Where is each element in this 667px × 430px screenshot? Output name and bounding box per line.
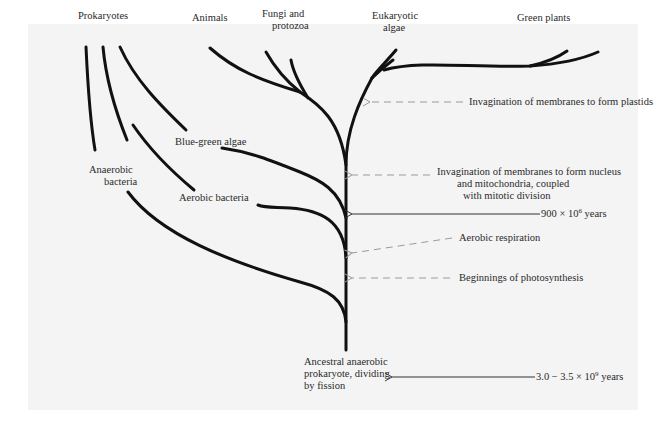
label-anaerobic-line2: bacteria — [104, 176, 137, 188]
event-nucleus-line1: Invagination of membranes to form nucleu… — [437, 166, 621, 178]
root-line3: by fission — [304, 380, 345, 392]
event-photosynthesis: Beginnings of photosynthesis — [459, 272, 583, 284]
event-nucleus-line2: and mitochondria, coupled — [457, 178, 569, 190]
event-nucleus-line3: with mitotic division — [463, 190, 551, 202]
label-fungi-line1: Fungi and — [262, 8, 304, 20]
label-blue-green-algae: Blue-green algae — [175, 136, 246, 148]
label-eukaryotic-line1: Eukaryotic — [372, 10, 418, 22]
event-plastids: Invagination of membranes to form plasti… — [469, 96, 653, 108]
label-fungi-line2: protozoa — [272, 20, 309, 32]
root-line2: prokaryote, dividing — [304, 368, 390, 380]
event-aerobic-respiration: Aerobic respiration — [459, 232, 540, 244]
label-green-plants: Green plants — [517, 12, 570, 24]
label-anaerobic-line1: Anaerobic — [89, 164, 133, 176]
root-line1: Ancestral anaerobic — [304, 356, 388, 368]
label-animals: Animals — [192, 12, 228, 24]
event-900-million-years: 900 × 106 years — [541, 208, 607, 220]
event-root-time: 3.0 − 3.5 × 109 years — [536, 371, 623, 383]
label-prokaryotes: Prokaryotes — [78, 10, 128, 22]
label-eukaryotic-line2: algae — [383, 22, 405, 34]
label-aerobic-bacteria: Aerobic bacteria — [179, 192, 249, 204]
